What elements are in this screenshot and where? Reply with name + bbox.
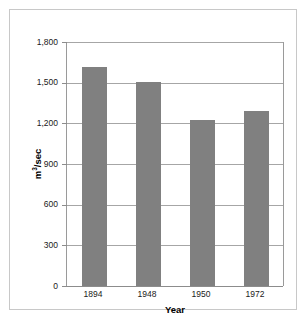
y-axis-tick-mark xyxy=(62,83,67,84)
gridline xyxy=(67,286,283,287)
y-axis-tick-mark xyxy=(62,245,67,246)
plot-area xyxy=(66,42,284,286)
y-axis-tick-label: 0 xyxy=(53,282,58,291)
x-axis-tick-label: 1950 xyxy=(174,290,228,299)
chart-frame: 03006009001,2001,5001,800 m3/sec 1894194… xyxy=(9,9,297,310)
x-axis-title: Year xyxy=(66,305,284,315)
y-axis-title: m3/sec xyxy=(30,42,46,286)
y-axis-title-text: m3/sec xyxy=(33,149,43,180)
bar xyxy=(136,82,161,286)
y-axis-tick-mark xyxy=(62,164,67,165)
y-axis-tick-mark xyxy=(62,205,67,206)
y-axis-tick-mark xyxy=(62,42,67,43)
x-axis-tick-label: 1948 xyxy=(120,290,174,299)
y-axis-tick-mark xyxy=(62,123,67,124)
gridline xyxy=(67,42,283,43)
bar xyxy=(82,67,107,286)
x-axis-tick-label: 1972 xyxy=(228,290,282,299)
x-axis-tick-labels: 1894194819501972 xyxy=(66,290,284,304)
chart-figure: 03006009001,2001,5001,800 m3/sec 1894194… xyxy=(0,0,308,327)
x-axis-tick-label: 1894 xyxy=(66,290,120,299)
bar xyxy=(190,120,215,286)
y-axis-tick-mark xyxy=(62,286,67,287)
bar xyxy=(244,111,269,286)
